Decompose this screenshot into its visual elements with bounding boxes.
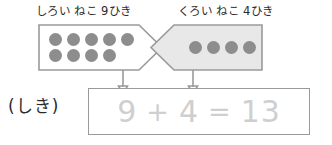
dot-row (186, 40, 258, 56)
dot (207, 41, 220, 54)
dot (85, 49, 98, 62)
dot (121, 33, 134, 46)
dot-group-white-cats (38, 24, 163, 71)
equation-plus-operator: + (146, 98, 170, 125)
dot (49, 33, 62, 46)
equation-addend-right: 4 (179, 97, 199, 127)
group-label-black-cats: くろい ねこ 4ひき (178, 6, 274, 18)
dot (67, 49, 80, 62)
equation-answer-box[interactable]: 9 + 4 = 13 (88, 88, 310, 135)
dot (189, 41, 202, 54)
equation-row: 9 + 4 = 13 (89, 89, 309, 134)
dot (103, 49, 116, 62)
equation-sum: 13 (241, 97, 281, 127)
dot-row (46, 48, 136, 64)
black-cats-dots (186, 24, 258, 71)
equation-equals-sign: = (208, 98, 232, 125)
equation-addend-left: 9 (117, 97, 137, 127)
dot (225, 41, 238, 54)
dot (67, 33, 80, 46)
dot-row (46, 32, 136, 48)
dot (243, 41, 256, 54)
equation-prefix-label: (しき) (8, 98, 59, 115)
dot (49, 49, 62, 62)
dot (85, 33, 98, 46)
group-label-white-cats: しろい ねこ 9ひき (36, 6, 132, 18)
white-cats-dots (46, 24, 136, 71)
dot-group-black-cats (150, 24, 263, 71)
math-worksheet: しろい ねこ 9ひき くろい ねこ 4ひき (0, 0, 332, 145)
dot (103, 33, 116, 46)
